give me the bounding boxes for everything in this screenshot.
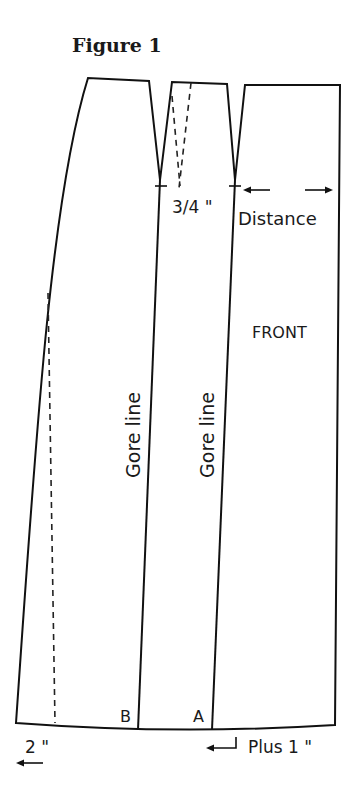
gore-line-middle-label: Gore line <box>196 392 218 478</box>
arrow-left-icon <box>16 760 43 767</box>
skirt-pattern-diagram: Figure 1 3/4 " Distance FRONT Gore line … <box>0 0 360 807</box>
point-b-label: B <box>120 707 131 726</box>
arrow-left-icon <box>243 187 270 194</box>
dart-dashed-line-1 <box>172 96 180 186</box>
front-label: FRONT <box>252 323 307 342</box>
figure-title: Figure 1 <box>72 34 162 56</box>
point-a-label: A <box>193 707 204 726</box>
dart-width-label: 3/4 " <box>172 197 213 217</box>
flare-dashed-line <box>48 293 55 723</box>
dart-dashed-line-2 <box>179 83 191 188</box>
pattern-outline <box>16 78 340 730</box>
gore-line-left-label: Gore line <box>122 392 144 478</box>
return-arrow-icon <box>206 737 236 752</box>
arrow-right-icon <box>305 187 333 194</box>
distance-label: Distance <box>238 208 317 229</box>
left-extension-label: 2 " <box>25 737 49 757</box>
right-extension-label: Plus 1 " <box>248 737 312 757</box>
